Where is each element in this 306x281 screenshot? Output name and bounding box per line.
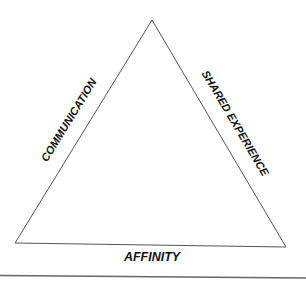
label-affinity: AFFINITY [123,250,182,264]
label-communication: COMMUNICATION [39,75,100,163]
triangle-diagram: COMMUNICATION SHARED EXPERIENCE AFFINITY [0,0,306,281]
bottom-divider-line [0,276,306,279]
